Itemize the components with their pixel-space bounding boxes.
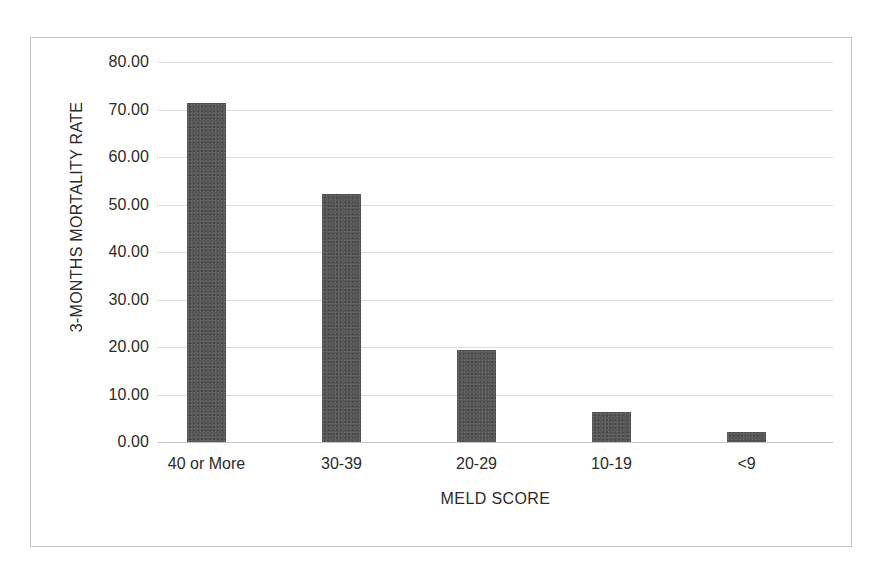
bar [322, 194, 361, 442]
y-axis-title: 3-MONTHS MORTALITY RATE [68, 67, 86, 367]
y-axis-tick-label: 30.00 [108, 291, 149, 309]
y-axis-tick-label: 70.00 [108, 101, 149, 119]
gridline [158, 252, 833, 253]
chart-frame: 0.0010.0020.0030.0040.0050.0060.0070.008… [30, 37, 852, 547]
gridline [158, 157, 833, 158]
bar [727, 432, 766, 442]
x-axis-tick-label: 40 or More [168, 455, 245, 473]
gridline [158, 347, 833, 348]
x-axis-line [158, 442, 833, 443]
gridline [158, 300, 833, 301]
bar [457, 350, 496, 442]
y-axis-tick-label: 60.00 [108, 148, 149, 166]
y-axis-tick-label: 0.00 [117, 433, 149, 451]
bar [592, 412, 631, 442]
plot-area: 0.0010.0020.0030.0040.0050.0060.0070.008… [158, 62, 833, 442]
x-axis-title: MELD SCORE [158, 490, 833, 508]
x-axis-tick-label: <9 [737, 455, 755, 473]
y-axis-tick-label: 50.00 [108, 196, 149, 214]
y-axis-tick-label: 80.00 [108, 53, 149, 71]
bar [187, 103, 226, 442]
y-axis-tick-label: 40.00 [108, 243, 149, 261]
x-axis-tick-label: 30-39 [321, 455, 362, 473]
y-axis-tick-label: 20.00 [108, 338, 149, 356]
gridline [158, 62, 833, 63]
gridline [158, 205, 833, 206]
y-axis-tick-label: 10.00 [108, 386, 149, 404]
x-axis-tick-label: 20-29 [456, 455, 497, 473]
x-axis-tick-label: 10-19 [591, 455, 632, 473]
gridline [158, 110, 833, 111]
